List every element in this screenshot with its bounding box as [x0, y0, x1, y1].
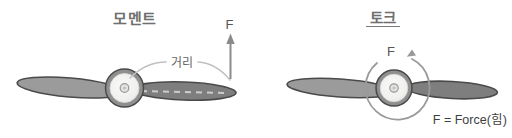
force-caption: F = Force(힘): [433, 113, 507, 127]
moment-title: 모멘트: [113, 10, 157, 27]
distance-label: 거리: [171, 56, 193, 70]
distance-brace-right: [198, 62, 230, 80]
moment-diagram: 모멘트 거리 F: [16, 10, 236, 107]
moment-torque-figure: 모멘트 거리 F: [0, 0, 512, 138]
moment-force-label: F: [226, 17, 234, 32]
torque-title: 토크: [370, 10, 397, 26]
force-arrow-up-icon: [226, 34, 234, 80]
rotation-arrow-head: [407, 50, 416, 57]
force-arrow-head: [226, 34, 234, 45]
diagram-canvas: 모멘트 거리 F: [0, 0, 512, 138]
torque-force-label: F: [387, 44, 395, 59]
distance-annotation: 거리: [130, 56, 230, 80]
moment-hub: [106, 69, 144, 107]
torque-diagram: 토크 F F = Force(힘): [287, 10, 507, 127]
moment-hub-dot: [123, 87, 126, 90]
torque-hub: [376, 70, 412, 106]
torque-right-blade: [406, 79, 498, 101]
torque-hub-dot: [393, 87, 396, 90]
moment-right-blade: [132, 80, 237, 102]
